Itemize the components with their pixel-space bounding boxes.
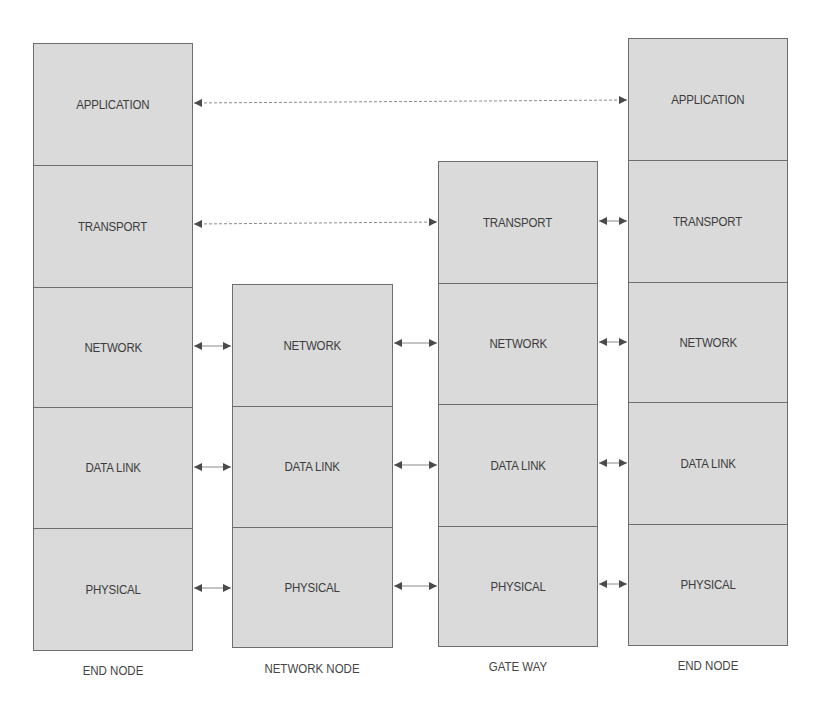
layer-label: NETWORK — [679, 336, 737, 350]
arrow-application-end-to-end — [194, 100, 627, 103]
layer-label: TRANSPORT — [483, 216, 552, 230]
layer-transport: TRANSPORT — [629, 160, 787, 282]
layer-label: TRANSPORT — [78, 220, 147, 234]
layer-network: NETWORK — [34, 287, 192, 407]
layer-transport: TRANSPORT — [439, 162, 597, 283]
layer-application: APPLICATION — [34, 44, 192, 165]
layer-physical: PHYSICAL — [34, 528, 192, 650]
layer-physical: PHYSICAL — [629, 524, 787, 645]
layer-label: PHYSICAL — [285, 581, 340, 595]
end-node-left-label: END NODE — [39, 664, 186, 678]
gateway-label: GATE WAY — [444, 660, 591, 674]
layer-transport: TRANSPORT — [34, 165, 192, 287]
layer-label: APPLICATION — [76, 98, 149, 112]
layer-network: NETWORK — [439, 283, 597, 404]
gateway-stack: TRANSPORT NETWORK DATA LINK PHYSICAL — [438, 161, 598, 647]
network-node-label: NETWORK NODE — [238, 662, 385, 676]
layer-label: DATA LINK — [490, 459, 545, 473]
layer-label: DATA LINK — [285, 460, 340, 474]
layer-label: PHYSICAL — [490, 580, 545, 594]
end-node-left-stack: APPLICATION TRANSPORT NETWORK DATA LINK … — [33, 43, 193, 651]
layer-label: NETWORK — [284, 339, 342, 353]
layer-label: NETWORK — [489, 337, 547, 351]
layer-network: NETWORK — [233, 285, 392, 406]
network-node-stack: NETWORK DATA LINK PHYSICAL — [232, 284, 393, 648]
layer-physical: PHYSICAL — [233, 527, 392, 647]
layer-label: DATA LINK — [85, 461, 140, 475]
layer-label: DATA LINK — [680, 457, 735, 471]
arrow-transport-end-to-gateway — [194, 222, 437, 224]
layer-application: APPLICATION — [629, 39, 787, 160]
end-node-right-label: END NODE — [634, 659, 781, 673]
layer-label: NETWORK — [84, 341, 142, 355]
layer-data-link: DATA LINK — [439, 404, 597, 526]
layer-label: PHYSICAL — [680, 578, 735, 592]
layer-label: PHYSICAL — [85, 583, 140, 597]
layer-physical: PHYSICAL — [439, 526, 597, 646]
layer-data-link: DATA LINK — [34, 407, 192, 528]
layer-label: TRANSPORT — [673, 215, 742, 229]
layer-label: APPLICATION — [671, 93, 744, 107]
layer-data-link: DATA LINK — [629, 402, 787, 524]
layer-network: NETWORK — [629, 282, 787, 402]
end-node-right-stack: APPLICATION TRANSPORT NETWORK DATA LINK … — [628, 38, 788, 646]
layer-data-link: DATA LINK — [233, 406, 392, 527]
